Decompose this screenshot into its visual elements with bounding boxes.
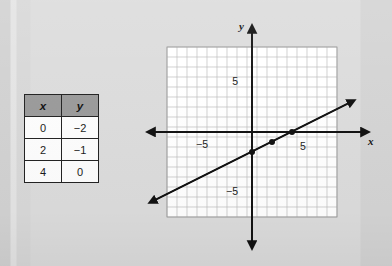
y-axis-label: y: [237, 20, 244, 32]
table-row: 4 0: [25, 161, 99, 183]
screenshot-canvas: x y 0 −2 2 −1 4 0: [0, 0, 392, 266]
table-cell-y: −1: [62, 139, 99, 161]
table-cell-x: 0: [25, 117, 62, 139]
x-axis-label: x: [367, 135, 374, 147]
table-header-y: y: [62, 95, 99, 117]
xy-value-table: x y 0 −2 2 −1 4 0: [24, 94, 99, 183]
table-header: x y: [25, 95, 99, 117]
table-row: 0 −2: [25, 117, 99, 139]
point-0-neg2: [249, 149, 255, 155]
table-cell-x: 2: [25, 139, 62, 161]
table-cell-y: −2: [62, 117, 99, 139]
x-axis-tick-5: 5: [300, 140, 306, 152]
table-row: 2 −1: [25, 139, 99, 161]
table-cell-y: 0: [62, 161, 99, 183]
y-axis-tick-neg5: −5: [226, 185, 238, 197]
table-cell-x: 4: [25, 161, 62, 183]
table-header-x: x: [25, 95, 62, 117]
x-axis-tick-neg5: −5: [196, 138, 208, 150]
point-4-0: [289, 129, 295, 135]
table-body: 0 −2 2 −1 4 0: [25, 117, 99, 183]
coordinate-plane: 5 −5 −5 5 y x: [140, 8, 392, 258]
y-axis-tick-5: 5: [232, 75, 238, 87]
point-2-neg1: [269, 139, 275, 145]
table-header-row: x y: [25, 95, 99, 117]
